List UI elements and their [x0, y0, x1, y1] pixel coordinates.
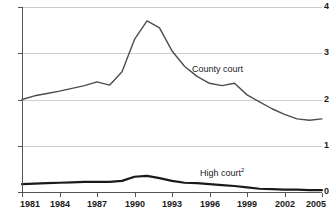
x-tick-label: 2002 [275, 199, 295, 209]
series-label-high-court-text: High court [200, 168, 241, 178]
y-tick-label: 0 [313, 187, 329, 196]
x-tick-label: 1981 [20, 199, 40, 209]
x-tick-mark [210, 193, 211, 197]
line-chart: 01234 1981198419871990199319961999200220… [0, 0, 329, 217]
plot-area [22, 7, 322, 192]
x-tick-label: 1996 [200, 199, 220, 209]
x-tick-mark [247, 193, 248, 197]
y-tick-mark [18, 53, 23, 54]
y-tick-mark [18, 146, 23, 147]
x-tick-label: 1987 [87, 199, 107, 209]
x-tick-mark [322, 193, 323, 197]
x-tick-mark [285, 193, 286, 197]
series-label-high-court: High court2 [200, 168, 244, 178]
x-tick-label: 2005 [306, 199, 326, 209]
x-tick-label: 1990 [125, 199, 145, 209]
y-tick-label: 4 [313, 2, 329, 11]
x-tick-mark [172, 193, 173, 197]
x-tick-label: 1999 [237, 199, 257, 209]
y-tick-label: 3 [313, 48, 329, 57]
series-label-high-court-footnote: 2 [241, 167, 244, 173]
y-tick-label: 1 [313, 141, 329, 150]
y-tick-mark [18, 7, 23, 8]
y-tick-mark [18, 100, 23, 101]
series-label-county-court-text: County court [192, 64, 243, 74]
series-label-county-court: County court [192, 64, 243, 74]
series-lines [22, 7, 322, 192]
x-tick-mark [97, 193, 98, 197]
x-tick-label: 1993 [162, 199, 182, 209]
x-tick-mark [60, 193, 61, 197]
y-tick-label: 2 [313, 95, 329, 104]
series-line [22, 21, 322, 120]
x-tick-mark [135, 193, 136, 197]
series-line [22, 176, 322, 190]
x-tick-label: 1984 [50, 199, 70, 209]
x-tick-mark [22, 193, 23, 197]
